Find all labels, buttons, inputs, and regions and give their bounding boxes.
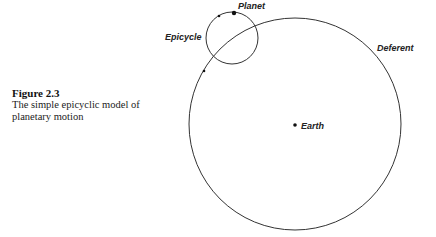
epicycle-marker-dot xyxy=(218,15,221,18)
deferent-marker-dot xyxy=(203,70,206,73)
epicycle-circle xyxy=(206,12,258,64)
earth-label: Earth xyxy=(301,121,325,131)
planet-dot xyxy=(232,11,236,15)
deferent-label: Deferent xyxy=(377,43,415,53)
epicycle-diagram: Planet Epicycle Deferent Earth xyxy=(0,0,436,237)
epicycle-label: Epicycle xyxy=(165,32,202,42)
planet-label: Planet xyxy=(238,1,266,11)
earth-dot xyxy=(293,123,297,127)
